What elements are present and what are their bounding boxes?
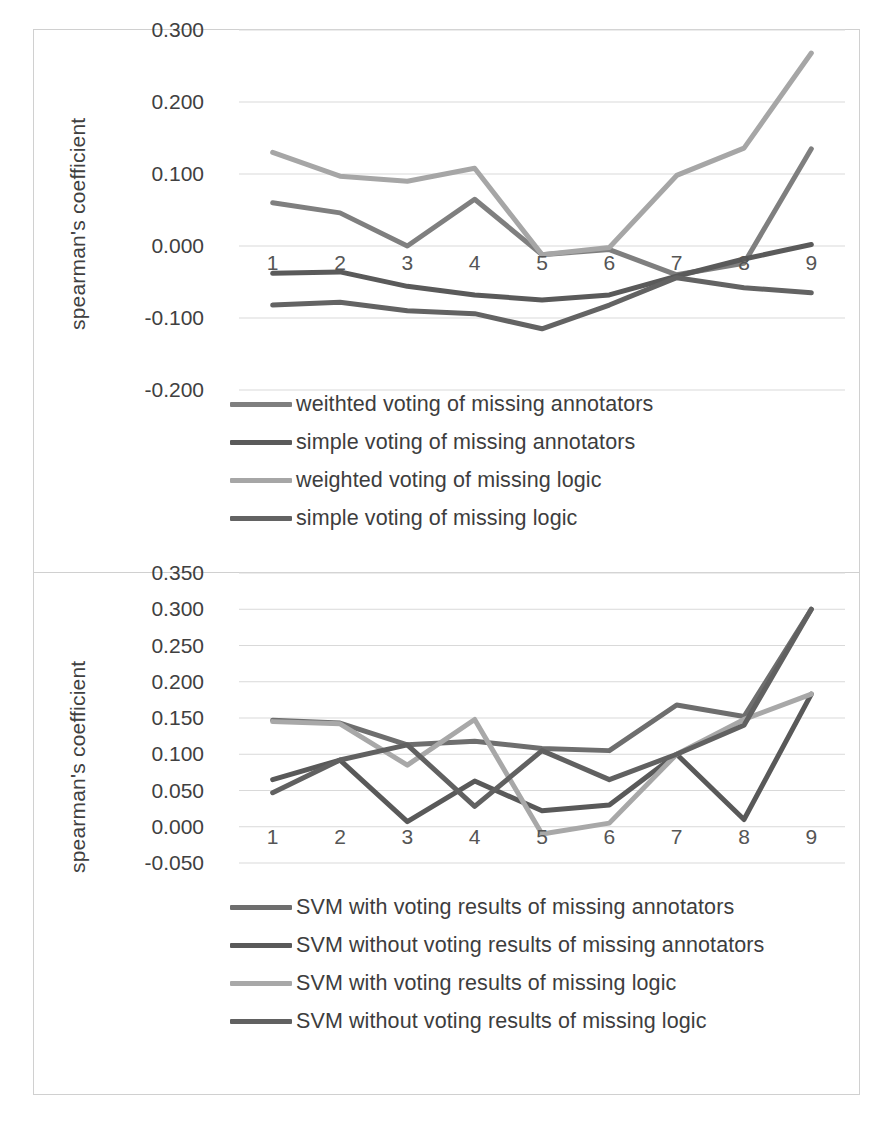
x-tick-label: 4 — [469, 252, 481, 273]
y-axis-title-top: spearman's coefficient — [66, 118, 90, 330]
legend-label: SVM with voting results of missing annot… — [296, 895, 734, 920]
legend-item[interactable]: simple voting of missing logic — [230, 499, 892, 537]
legend-item[interactable]: simple voting of missing annotators — [230, 423, 892, 461]
legend-item[interactable]: SVM without voting results of missing lo… — [230, 1002, 892, 1040]
x-tick-label: 9 — [805, 252, 817, 273]
legend-color-swatch — [230, 478, 292, 483]
x-tick-label: 9 — [805, 826, 817, 847]
x-tick-label: 6 — [603, 826, 615, 847]
plot-area-top — [239, 30, 845, 390]
y-tick-label: 0.100 — [151, 163, 204, 184]
y-tick-label: -0.100 — [144, 307, 204, 328]
legend-color-swatch — [230, 402, 292, 407]
legend-top: weithted voting of missing annotatorssim… — [34, 385, 892, 537]
x-tick-label: 6 — [603, 252, 615, 273]
figure-container: spearman's coefficient 0.3000.2000.1000.… — [33, 29, 860, 1095]
voting-chart-panel: spearman's coefficient 0.3000.2000.1000.… — [34, 30, 859, 573]
x-tick-label: 5 — [536, 826, 548, 847]
legend-color-swatch — [230, 943, 292, 948]
legend-label: simple voting of missing logic — [296, 506, 577, 531]
x-tick-label: 1 — [267, 252, 279, 273]
legend-color-swatch — [230, 1019, 292, 1024]
x-tick-label: 8 — [738, 252, 750, 273]
legend-label: simple voting of missing annotators — [296, 430, 635, 455]
y-tick-label: 0.300 — [151, 598, 204, 619]
svm-chart-panel: spearman's coefficient 0.3500.3000.2500.… — [34, 573, 859, 1094]
y-axis-tick-labels-top: 0.3000.2000.1000.000-0.100-0.200 — [94, 30, 204, 390]
legend-color-swatch — [230, 981, 292, 986]
x-tick-label: 5 — [536, 252, 548, 273]
x-tick-label: 2 — [334, 826, 346, 847]
x-tick-label: 4 — [469, 826, 481, 847]
y-tick-label: 0.050 — [151, 780, 204, 801]
legend-label: weighted voting of missing logic — [296, 468, 602, 493]
x-tick-label: 7 — [671, 252, 683, 273]
series-line — [273, 278, 812, 329]
legend-item[interactable]: SVM with voting results of missing logic — [230, 964, 892, 1002]
legend-color-swatch — [230, 905, 292, 910]
legend-label: weithted voting of missing annotators — [296, 392, 653, 417]
y-axis-title-bottom: spearman's coefficient — [66, 661, 90, 873]
series-line — [273, 609, 812, 806]
series-line — [273, 53, 812, 255]
y-tick-label: 0.000 — [151, 816, 204, 837]
legend-label: SVM without voting results of missing an… — [296, 933, 764, 958]
legend-label: SVM without voting results of missing lo… — [296, 1009, 707, 1034]
y-tick-label: 0.300 — [151, 19, 204, 40]
legend-color-swatch — [230, 440, 292, 445]
x-tick-label: 7 — [671, 826, 683, 847]
legend-color-swatch — [230, 516, 292, 521]
x-tick-label: 2 — [334, 252, 346, 273]
y-tick-label: 0.000 — [151, 235, 204, 256]
legend-item[interactable]: weighted voting of missing logic — [230, 461, 892, 499]
y-tick-label: 0.250 — [151, 635, 204, 656]
y-tick-label: 0.200 — [151, 671, 204, 692]
y-axis-tick-labels-bottom: 0.3500.3000.2500.2000.1500.1000.0500.000… — [94, 573, 204, 863]
legend-item[interactable]: SVM without voting results of missing an… — [230, 926, 892, 964]
legend-bottom: SVM with voting results of missing annot… — [34, 888, 892, 1040]
legend-item[interactable]: SVM with voting results of missing annot… — [230, 888, 892, 926]
x-tick-label: 3 — [401, 826, 413, 847]
x-tick-label: 8 — [738, 826, 750, 847]
y-tick-label: 0.100 — [151, 743, 204, 764]
x-axis-tick-labels-bottom: 123456789 — [239, 826, 845, 852]
legend-item[interactable]: weithted voting of missing annotators — [230, 385, 892, 423]
y-tick-label: 0.150 — [151, 707, 204, 728]
y-tick-label: -0.050 — [144, 852, 204, 873]
y-tick-label: 0.200 — [151, 91, 204, 112]
x-tick-label: 3 — [401, 252, 413, 273]
x-tick-label: 1 — [267, 826, 279, 847]
x-axis-tick-labels-top: 123456789 — [239, 252, 845, 278]
plot-area-bottom — [239, 573, 845, 863]
line-chart-bottom — [239, 573, 845, 863]
line-chart-top — [239, 30, 845, 390]
y-tick-label: 0.350 — [151, 562, 204, 583]
legend-label: SVM with voting results of missing logic — [296, 971, 676, 996]
